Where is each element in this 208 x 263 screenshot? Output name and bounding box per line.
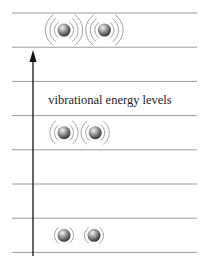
atom-ball bbox=[58, 229, 71, 242]
vibration-arc bbox=[72, 19, 78, 42]
atom-ball bbox=[89, 126, 102, 139]
vibration-arc bbox=[45, 15, 53, 46]
vibration-arc bbox=[72, 121, 78, 144]
vibration-arc bbox=[81, 121, 87, 144]
energy-level-diagram: vibrational energy levels bbox=[0, 0, 208, 263]
energy-arrow-head bbox=[30, 50, 37, 62]
vibration-arc bbox=[75, 15, 83, 46]
mid-energy-pair bbox=[50, 121, 109, 144]
atom-ball bbox=[88, 229, 101, 242]
high-energy-pair bbox=[45, 15, 123, 46]
vibration-arc bbox=[103, 121, 109, 144]
molecules bbox=[45, 15, 123, 243]
vibration-arc bbox=[50, 121, 56, 144]
vibration-arc bbox=[115, 15, 123, 46]
vibration-arc bbox=[112, 19, 118, 42]
vibration-arc bbox=[90, 19, 96, 42]
atom-ball bbox=[58, 126, 71, 139]
vibration-arc bbox=[86, 15, 94, 46]
atom-ball bbox=[58, 24, 71, 37]
ground-state-pair bbox=[54, 228, 103, 244]
atom-ball bbox=[98, 24, 111, 37]
diagram-label: vibrational energy levels bbox=[48, 93, 171, 107]
vibration-arc bbox=[50, 19, 56, 42]
